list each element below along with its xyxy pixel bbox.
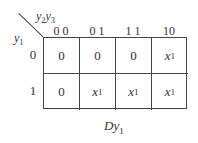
cell-r1-c2: x1 xyxy=(116,74,152,110)
column-variables-label: y2y3 xyxy=(36,9,55,25)
row-variable-label: y1 xyxy=(14,31,24,47)
cell-sub: 1 xyxy=(98,87,103,97)
row-header-1: 1 xyxy=(26,83,40,99)
map-caption: Dy1 xyxy=(104,118,124,136)
row-var-sub: 1 xyxy=(19,38,23,47)
cell-sub: 1 xyxy=(134,87,139,97)
cell-value: 0 xyxy=(130,48,137,64)
row-header-0: 0 xyxy=(26,47,40,63)
cell-sub: 1 xyxy=(171,51,176,61)
karnaugh-map-grid: 0 0 0 x1 0 x1 x1 x1 xyxy=(43,37,187,109)
cell-sub: 1 xyxy=(171,87,176,97)
cell-value: 0 xyxy=(58,48,65,64)
caption-text: Dy xyxy=(104,118,119,133)
cell-r0-c0: 0 xyxy=(44,38,80,74)
cell-value: 0 xyxy=(94,48,101,64)
caption-sub: 1 xyxy=(119,126,124,136)
cell-r1-c1: x1 xyxy=(80,74,116,110)
cell-r0-c3: x1 xyxy=(152,38,188,74)
cell-r1-c3: x1 xyxy=(152,74,188,110)
cell-r0-c1: 0 xyxy=(80,38,116,74)
cell-r1-c0: 0 xyxy=(44,74,80,110)
cell-value: 0 xyxy=(58,84,65,100)
cell-r0-c2: 0 xyxy=(116,38,152,74)
